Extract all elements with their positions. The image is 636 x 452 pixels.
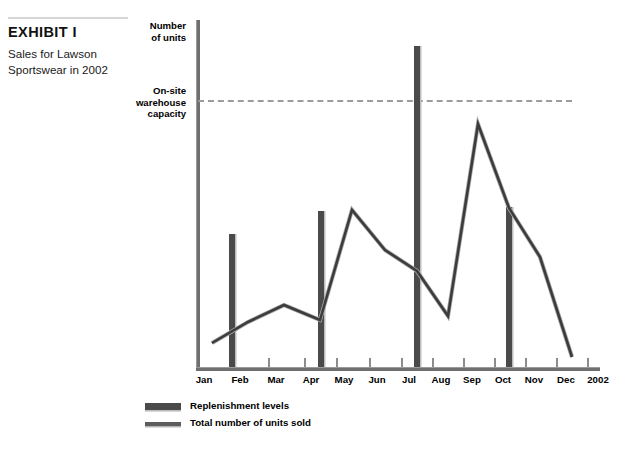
x-axis-label-oct: Oct <box>487 374 519 385</box>
legend-line-swatch-icon <box>145 422 181 426</box>
x-axis-highlight <box>196 367 600 368</box>
y-axis-highlight <box>196 20 197 369</box>
bar-apr <box>318 211 324 367</box>
legend-label-units-sold: Total number of units sold <box>190 417 311 428</box>
capacity-annotation-line-3: capacity <box>108 108 186 120</box>
title-divider <box>8 17 128 19</box>
bar-jan-feb <box>229 234 235 367</box>
exhibit-caption: Sales for Lawson Sportswear in 2002 <box>8 46 138 78</box>
x-axis-label-nov: Nov <box>518 374 550 385</box>
x-axis-label-2002: 2002 <box>582 374 614 385</box>
exhibit-label: EXHIBIT I <box>8 24 77 40</box>
y-axis-annotation-number-of-units: Number of units <box>108 20 186 43</box>
x-axis-label-feb: Feb <box>224 374 256 385</box>
x-axis-tick-5 <box>369 358 371 367</box>
x-axis-label-apr: Apr <box>295 374 327 385</box>
capacity-annotation-line-2: warehouse <box>108 97 186 109</box>
capacity-annotation-line-1: On-site <box>108 85 186 97</box>
capacity-reference-line <box>198 100 572 102</box>
x-axis-label-jun: Jun <box>361 374 393 385</box>
x-axis-tick-12 <box>587 358 589 367</box>
x-axis-label-may: May <box>328 374 360 385</box>
exhibit-chart-page: EXHIBIT I Sales for Lawson Sportswear in… <box>0 0 636 452</box>
x-axis-tick-4 <box>336 358 338 367</box>
x-axis-tick-11 <box>556 358 558 367</box>
x-axis-tick-9 <box>494 358 496 367</box>
y-axis-annotation-line-2: of units <box>108 32 186 44</box>
x-axis-label-jan: Jan <box>188 374 220 385</box>
x-axis-label-mar: Mar <box>260 374 292 385</box>
y-axis-annotation-line-1: Number <box>108 20 186 32</box>
x-axis-tick-10 <box>525 358 527 367</box>
bar-jul <box>414 46 420 367</box>
x-axis-tick-3 <box>304 358 306 367</box>
x-axis-label-dec: Dec <box>550 374 582 385</box>
x-axis-label-sep: Sep <box>456 374 488 385</box>
bar-nov <box>506 207 512 367</box>
legend-bar-swatch-icon <box>145 403 181 410</box>
x-axis-tick-7 <box>432 358 434 367</box>
x-axis-tick-2 <box>268 358 270 367</box>
capacity-annotation: On-site warehouse capacity <box>108 85 186 120</box>
x-axis-tick-8 <box>463 358 465 367</box>
x-axis-label-aug: Aug <box>425 374 457 385</box>
x-axis-label-jul: Jul <box>393 374 425 385</box>
legend-label-replenishment: Replenishment levels <box>190 400 289 411</box>
x-axis-tick-6 <box>401 358 403 367</box>
